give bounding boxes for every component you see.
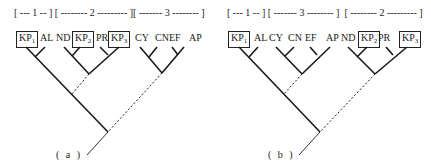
dendrogram-a — [0, 0, 215, 165]
tree-panel-a: [ --- 1 -- ] [ -------- 2 --------- ][ -… — [0, 0, 215, 165]
dendrogram-b — [215, 0, 431, 165]
tree-panel-b: [ --- 1 -- ] [ ------- 3 -------- ] [ --… — [215, 0, 430, 165]
caption-a: ( a ) — [56, 149, 82, 160]
caption-b: ( b ) — [268, 149, 295, 160]
